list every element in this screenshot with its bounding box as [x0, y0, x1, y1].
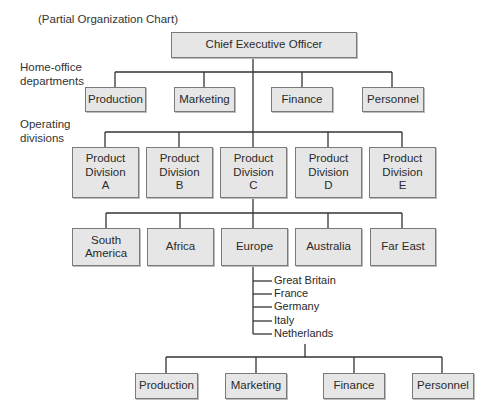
- country-marketing: Marketing: [225, 373, 287, 399]
- home-office-label: Home-office departments: [20, 60, 84, 88]
- chart-title: (Partial Organization Chart): [38, 12, 178, 26]
- product-division-a: Product Division A: [72, 147, 139, 198]
- region-far-east: Far East: [370, 228, 436, 266]
- country-france: France: [274, 287, 308, 300]
- product-division-d: Product Division D: [295, 147, 362, 198]
- product-division-b: Product Division B: [146, 147, 213, 198]
- country-personnel: Personnel: [412, 373, 474, 399]
- home-office-personnel: Personnel: [362, 87, 424, 112]
- region-africa: Africa: [147, 228, 214, 266]
- home-office-marketing: Marketing: [174, 87, 235, 112]
- operating-divisions-label: Operating divisions: [20, 117, 71, 145]
- country-netherlands: Netherlands: [274, 327, 333, 340]
- product-division-e: Product Division E: [369, 147, 436, 198]
- country-germany: Germany: [274, 300, 319, 313]
- home-office-finance: Finance: [271, 87, 333, 112]
- ceo-box: Chief Executive Officer: [171, 32, 357, 58]
- country-great-britain: Great Britain: [274, 274, 336, 287]
- org-chart: (Partial Organization Chart) Home-office…: [0, 0, 495, 415]
- country-italy: Italy: [274, 314, 294, 327]
- region-south-america: South America: [72, 228, 140, 266]
- country-production: Production: [135, 373, 198, 399]
- region-europe: Europe: [221, 228, 288, 266]
- home-office-production: Production: [85, 87, 146, 112]
- product-division-c: Product Division C: [220, 147, 287, 198]
- region-australia: Australia: [295, 228, 362, 266]
- country-finance: Finance: [323, 373, 385, 399]
